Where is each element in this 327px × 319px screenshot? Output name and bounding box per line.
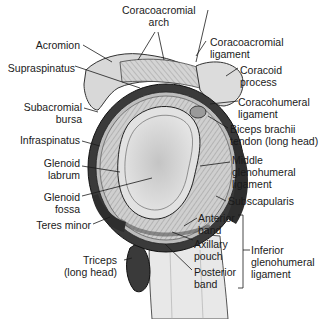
label-line: Anterior: [198, 212, 235, 224]
label-line: fossa: [44, 203, 80, 215]
label-line: arch: [122, 16, 196, 28]
label-line: Axillary: [194, 238, 228, 250]
label-line: bursa: [24, 113, 82, 125]
label-middle-glenohumeral-ligament: Middle glenohumeral ligament: [232, 154, 296, 190]
label-glenoid-fossa: Glenoid fossa: [44, 191, 80, 215]
label-infraspinatus: Infraspinatus: [20, 134, 80, 146]
label-supraspinatus: Supraspinatus: [8, 62, 75, 74]
label-line: Middle: [232, 154, 296, 166]
label-coracohumeral-ligament: Coracohumeral ligament: [238, 96, 310, 120]
label-axillary-pouch: Axillary pouch: [194, 238, 228, 262]
label-line: glenohumeral: [251, 256, 315, 268]
label-subacromial-bursa: Subacromial bursa: [24, 101, 82, 125]
label-coracoacromial-ligament: Coracoacromial ligament: [210, 36, 284, 60]
label-line: ligament: [210, 48, 284, 60]
label-line: band: [194, 278, 236, 290]
label-line: band: [198, 224, 235, 236]
label-coracoacromial-arch: Coracoacromial arch: [122, 4, 196, 28]
label-glenoid-labrum: Glenoid labrum: [44, 157, 80, 181]
label-line: ligament: [232, 178, 296, 190]
label-line: Coracoid: [240, 64, 282, 76]
label-line: ligament: [238, 108, 310, 120]
label-line: Coracoacromial: [210, 36, 284, 48]
label-line: Posterior: [194, 266, 236, 278]
label-line: process: [240, 76, 282, 88]
label-line: (long head): [64, 266, 117, 278]
triceps-long-head: [127, 244, 150, 292]
label-subscapularis: Subscapularis: [228, 195, 294, 207]
label-biceps-brachii-tendon: Biceps brachii tendon (long head): [230, 123, 318, 147]
label-coracoid-process: Coracoid process: [240, 64, 282, 88]
label-inferior-glenohumeral-ligament: Inferior glenohumeral ligament: [251, 244, 315, 280]
label-teres-minor: Teres minor: [36, 219, 91, 231]
label-line: labrum: [44, 169, 80, 181]
label-line: Subacromial: [24, 101, 82, 113]
label-line: tendon (long head): [230, 135, 318, 147]
label-posterior-band: Posterior band: [194, 266, 236, 290]
label-acromion: Acromion: [36, 39, 80, 51]
label-line: Coracohumeral: [238, 96, 310, 108]
label-line: pouch: [194, 250, 228, 262]
label-line: Coracoacromial: [122, 4, 196, 16]
label-line: Inferior: [251, 244, 315, 256]
label-line: Glenoid: [44, 191, 80, 203]
label-line: Glenoid: [44, 157, 80, 169]
label-triceps-long-head: Triceps (long head): [64, 254, 117, 278]
biceps-tendon: [190, 106, 206, 118]
label-line: glenohumeral: [232, 166, 296, 178]
label-anterior-band: Anterior band: [198, 212, 235, 236]
label-line: Triceps: [64, 254, 117, 266]
label-line: Biceps brachii: [230, 123, 318, 135]
label-line: ligament: [251, 268, 315, 280]
